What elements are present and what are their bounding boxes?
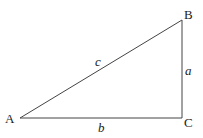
vertex-label-a: A [5, 111, 15, 126]
side-label-c: c [95, 54, 101, 69]
vertex-label-b: B [184, 7, 193, 22]
triangle-shape [20, 20, 182, 118]
side-label-b: b [98, 120, 105, 135]
triangle-diagram: A B C c a b [0, 0, 203, 138]
vertex-label-c: C [184, 115, 193, 130]
side-label-a: a [185, 63, 192, 78]
